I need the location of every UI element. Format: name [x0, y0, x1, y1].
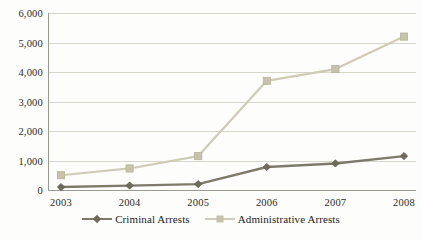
series-line-criminal-arrests	[61, 156, 404, 187]
chart-legend: Criminal Arrests Administrative Arrests	[0, 213, 422, 225]
x-tick-label: 2006	[256, 197, 278, 208]
legend-label-administrative-arrests: Administrative Arrests	[238, 213, 340, 225]
x-tick-label: 2003	[50, 197, 72, 208]
legend-entry-administrative-arrests[interactable]: Administrative Arrests	[205, 213, 340, 225]
legend-label-criminal-arrests: Criminal Arrests	[115, 213, 190, 225]
data-point-marker[interactable]	[57, 172, 64, 179]
data-point-marker[interactable]	[57, 183, 64, 190]
data-series-layer	[49, 13, 416, 190]
data-point-marker[interactable]	[263, 77, 270, 84]
series-line-administrative-arrests	[61, 37, 404, 176]
y-tick-label: 6,000	[18, 8, 43, 19]
data-point-marker[interactable]	[195, 152, 202, 159]
y-tick-label: 5,000	[18, 37, 43, 48]
plot-area: 01,0002,0003,0004,0005,0006,000 20032004…	[48, 13, 416, 191]
data-point-marker[interactable]	[126, 182, 133, 189]
data-point-marker[interactable]	[332, 160, 339, 167]
diamond-marker-icon	[82, 214, 112, 224]
y-tick-label: 2,000	[18, 126, 43, 137]
data-point-marker[interactable]	[332, 65, 339, 72]
line-chart-figure: 01,0002,0003,0004,0005,0006,000 20032004…	[0, 0, 422, 240]
square-marker-icon	[205, 214, 235, 224]
data-point-marker[interactable]	[126, 165, 133, 172]
y-tick-label: 1,000	[18, 155, 43, 166]
data-point-marker[interactable]	[400, 33, 407, 40]
y-tick-label: 3,000	[18, 96, 43, 107]
x-tick-label: 2005	[187, 197, 209, 208]
x-tick-label: 2004	[119, 197, 141, 208]
data-point-marker[interactable]	[400, 152, 407, 159]
caption-strip	[0, 231, 422, 240]
data-point-marker[interactable]	[195, 181, 202, 188]
x-tick-label: 2008	[393, 197, 415, 208]
x-tick-label: 2007	[324, 197, 346, 208]
data-point-marker[interactable]	[263, 163, 270, 170]
y-tick-label: 4,000	[18, 67, 43, 78]
y-tick-label: 0	[38, 185, 43, 196]
legend-entry-criminal-arrests[interactable]: Criminal Arrests	[82, 213, 190, 225]
